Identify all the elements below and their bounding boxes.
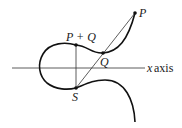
curve-lower-branch [76, 80, 135, 122]
elliptic-curve-diagram: P Q P + Q S x axis [0, 0, 182, 128]
curve-loop [40, 43, 76, 89]
label-s: S [72, 90, 78, 104]
point-p [133, 11, 137, 15]
label-q: Q [100, 55, 109, 69]
label-x-axis-var: x [146, 61, 153, 75]
label-sum: P + Q [65, 30, 96, 44]
secant-line [76, 13, 135, 88]
label-x-axis-word: axis [154, 61, 174, 75]
label-p: P [138, 6, 147, 20]
